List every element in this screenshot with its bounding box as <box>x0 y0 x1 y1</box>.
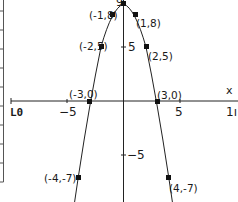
point-label-neg1-8: (-1,8) <box>89 9 118 21</box>
x-tick-label-5: 5 <box>175 105 183 119</box>
x-tick-label-neg10: L0 <box>10 106 23 119</box>
point-label-1-8: (1,8) <box>136 17 161 29</box>
point-2-5 <box>144 44 149 49</box>
point-0-9 <box>121 1 126 6</box>
x-axis <box>11 98 238 104</box>
y-tick-label-5: 5 <box>128 40 136 54</box>
x-axis-label: x <box>226 84 233 97</box>
y-tick-label-neg5: −5 <box>127 148 145 162</box>
point-label-neg3-0: (-3,0) <box>69 88 98 100</box>
point-label-2-5: (2,5) <box>148 50 173 62</box>
point-label-neg2-5: (-2,5) <box>79 40 108 52</box>
x-tick-label-neg5: −5 <box>59 105 77 119</box>
point-label-3-0: (3,0) <box>157 89 182 101</box>
parabola-chart: x 9 L0 −5 5 1ı 5 −5 (-1,8) (1,8) (-2,5) … <box>0 0 238 202</box>
left-border-scale <box>0 0 4 182</box>
point-4-neg7 <box>166 175 171 180</box>
point-label-neg4-neg7: (-4,-7) <box>44 172 76 184</box>
x-tick-label-10: 1ı <box>226 105 237 119</box>
point-label-4-neg7: (4,-7) <box>169 182 198 194</box>
point-neg4-neg7 <box>76 175 81 180</box>
